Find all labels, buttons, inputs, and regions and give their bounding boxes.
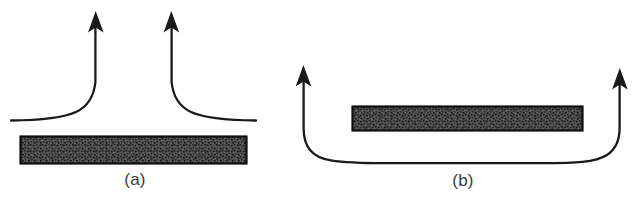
panel-a-caption: (a) (95, 171, 175, 188)
slab-a (20, 136, 247, 164)
figure-panel-b: (b) (285, 0, 637, 205)
figure-panel-a: (a) (0, 0, 285, 205)
figure-root: (a) (0, 0, 637, 205)
panel-b-caption: (b) (423, 172, 503, 189)
streamline-a-right (164, 11, 256, 121)
slab-b (352, 106, 583, 131)
streamline-a-left (11, 11, 104, 121)
